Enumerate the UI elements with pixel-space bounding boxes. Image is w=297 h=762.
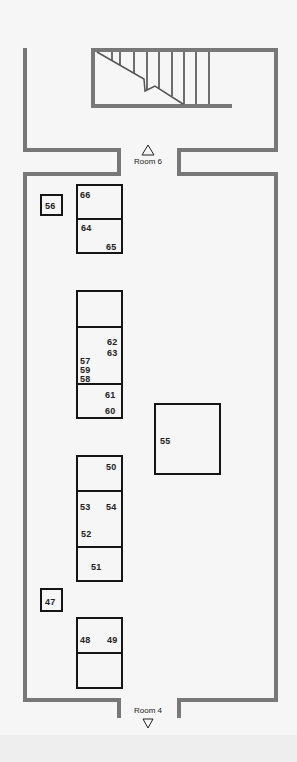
down-triangle-icon[interactable] (143, 719, 153, 728)
up-triangle-icon[interactable] (142, 145, 154, 155)
staircase-icon (91, 48, 278, 108)
exhibit-label-63: 63 (107, 348, 117, 358)
exhibit-label-64: 64 (81, 223, 91, 233)
exhibit-label-55: 55 (160, 436, 170, 446)
exhibit-label-47: 47 (45, 597, 55, 607)
exhibit-label-61: 61 (105, 390, 115, 400)
exhibit-label-58: 58 (80, 374, 90, 384)
exhibit-label-53: 53 (80, 502, 90, 512)
exhibit-label-56: 56 (45, 201, 55, 211)
exhibit-label-65: 65 (106, 242, 116, 252)
gallery-walls (23, 172, 278, 718)
floor-plan (0, 0, 297, 762)
exhibit-label-60: 60 (105, 406, 115, 416)
room-6-label[interactable]: Room 6 (118, 157, 178, 166)
exhibit-label-66: 66 (80, 190, 90, 200)
exhibit-label-48: 48 (80, 635, 90, 645)
exhibit-label-51: 51 (91, 562, 101, 572)
exhibit-label-52: 52 (81, 529, 91, 539)
exhibit-label-50: 50 (106, 462, 116, 472)
exhibit-label-54: 54 (106, 502, 116, 512)
exhibit-case-48-49[interactable] (77, 618, 122, 688)
exhibit-label-49: 49 (107, 635, 117, 645)
exhibit-label-62: 62 (107, 337, 117, 347)
room-4-label[interactable]: Room 4 (118, 706, 178, 715)
